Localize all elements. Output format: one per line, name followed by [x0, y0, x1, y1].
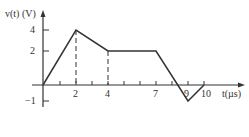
x-tick-label-9: 9 [184, 88, 189, 99]
x-tick-label-4: 4 [105, 88, 110, 99]
y-axis-label: v(t) (V) [5, 8, 36, 20]
y-axis-arrow-icon [41, 10, 46, 17]
y-tick-label-2: 2 [30, 45, 35, 56]
y-tick-label-m1: −1 [25, 95, 36, 106]
x-axis-arrow-icon [238, 83, 245, 88]
x-tick-label-10: 10 [201, 88, 211, 99]
waveform-line [43, 30, 204, 101]
x-tick-label-7: 7 [153, 88, 158, 99]
y-tick-label-4: 4 [30, 24, 35, 35]
x-axis-label: t(µs) [222, 88, 241, 100]
x-tick-label-2: 2 [73, 88, 78, 99]
waveform-chart: v(t) (V) 4 2 −1 2 4 7 9 10 t(µs) [0, 0, 249, 137]
